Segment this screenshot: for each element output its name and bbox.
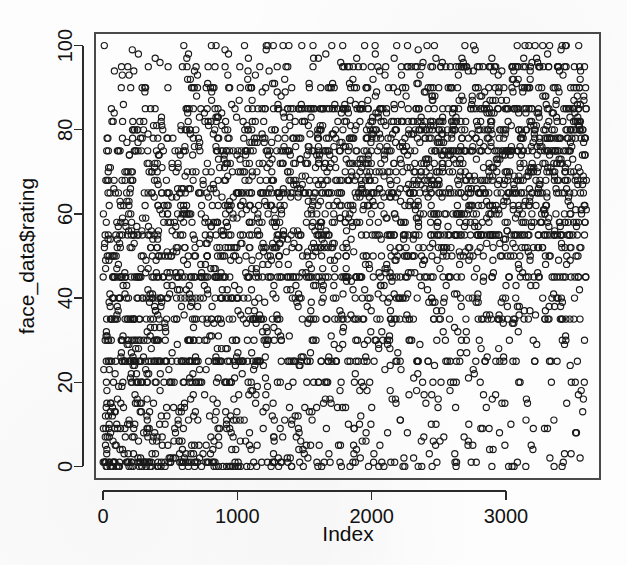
x-tick-label-0: 0 bbox=[97, 505, 108, 527]
y-tick-label-40: 40 bbox=[54, 287, 76, 309]
y-tick-label-60: 60 bbox=[54, 203, 76, 225]
figure-canvas: 0100020003000 020406080100 Index face_da… bbox=[0, 0, 627, 565]
y-tick-label-80: 80 bbox=[54, 119, 76, 141]
y-tick-label-100: 100 bbox=[54, 29, 76, 62]
y-tick-label-20: 20 bbox=[54, 371, 76, 393]
x-tick-label-1000: 1000 bbox=[215, 505, 260, 527]
scatter-plot: 0100020003000 020406080100 Index face_da… bbox=[0, 0, 627, 565]
x-tick-label-3000: 3000 bbox=[484, 505, 529, 527]
y-axis-title: face_data$rating bbox=[15, 178, 39, 334]
x-axis-title: Index bbox=[322, 522, 374, 545]
y-tick-label-0: 0 bbox=[54, 461, 76, 472]
